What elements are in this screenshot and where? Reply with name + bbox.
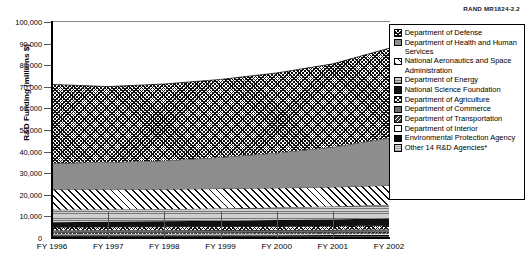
legend-item[interactable]: Department of Agriculture	[394, 95, 521, 104]
y-axis-tick-label: 30,000	[19, 169, 42, 178]
x-axis-tick	[333, 212, 334, 238]
y-axis-tick-label: 60,000	[19, 104, 42, 113]
legend-item-label: Department of Health and Human Services	[405, 38, 521, 56]
legend-swatch-icon	[394, 58, 402, 66]
legend-item-label: National Science Foundation	[405, 85, 501, 94]
x-axis-tick-label: FY 2001	[318, 242, 348, 251]
plot-top-rule	[51, 21, 390, 22]
legend-item[interactable]: Department of Transportation	[394, 114, 521, 123]
legend-item-label: Other 14 R&D Agencies*	[405, 143, 488, 152]
legend-item[interactable]: Department of Energy	[394, 75, 521, 84]
x-axis-tick-label: FY 1997	[93, 242, 123, 251]
x-axis-tick-label: FY 1998	[149, 242, 179, 251]
x-axis-tick-label: FY 2002	[374, 242, 404, 251]
legend-item-label: Department of Transportation	[405, 114, 503, 123]
x-axis-tick	[164, 212, 165, 238]
legend-item[interactable]: Department of Health and Human Services	[394, 38, 521, 56]
y-axis-tick-label: 70,000	[19, 82, 42, 91]
x-axis-tick	[108, 212, 109, 238]
y-axis-tick-label: 10,000	[19, 212, 42, 221]
legend-item-label: Environmental Protection Agency	[405, 133, 515, 142]
y-axis-tick-label: 80,000	[19, 61, 42, 70]
legend-item-label: Department of Interior	[405, 124, 478, 133]
legend-swatch-icon	[394, 86, 402, 94]
legend-swatch-icon	[394, 39, 402, 47]
legend-item-label: Department of Energy	[405, 75, 478, 84]
y-axis-tick-label: 40,000	[19, 147, 42, 156]
legend-item[interactable]: Other 14 R&D Agencies*	[394, 143, 521, 152]
x-axis-tick	[221, 212, 222, 238]
legend-swatch-icon	[394, 144, 402, 152]
x-axis-tick	[277, 212, 278, 238]
x-axis-tick-label: FY 2000	[261, 242, 291, 251]
y-axis-tick-label: 100,000	[15, 18, 42, 27]
legend-swatch-icon	[394, 135, 402, 143]
y-axis-tick-label: 20,000	[19, 190, 42, 199]
legend-swatch-icon	[394, 77, 402, 85]
legend-item-label: Department of Defense	[405, 28, 483, 37]
legend-swatch-icon	[394, 96, 402, 104]
legend-item-label: National Aeronautics and Space Administr…	[405, 56, 521, 74]
x-axis-tick-label: FY 1999	[205, 242, 235, 251]
legend-swatch-icon	[394, 106, 402, 114]
legend-item[interactable]: Environmental Protection Agency	[394, 133, 521, 142]
figure-source-id: RAND MR1824-2.2	[463, 5, 520, 12]
legend-swatch-icon	[394, 29, 402, 37]
legend-item-label: Department of Agriculture	[405, 95, 490, 104]
legend: Department of DefenseDepartment of Healt…	[389, 24, 525, 200]
legend-item-label: Department of Commerce	[405, 104, 491, 113]
legend-item[interactable]: Department of Interior	[394, 124, 521, 133]
legend-swatch-icon	[394, 125, 402, 133]
y-axis-line	[51, 21, 53, 239]
y-axis-tick-label: 50,000	[19, 126, 42, 135]
area-band-outline	[52, 22, 389, 238]
plot-area	[52, 22, 389, 238]
legend-item[interactable]: Department of Commerce	[394, 104, 521, 113]
legend-item[interactable]: National Science Foundation	[394, 85, 521, 94]
figure-container: RAND MR1824-2.2 R&D Funding (millions $)…	[0, 0, 528, 262]
legend-swatch-icon	[394, 115, 402, 123]
x-axis-tick-label: FY 1996	[37, 242, 67, 251]
legend-item[interactable]: Department of Defense	[394, 28, 521, 37]
y-axis-tick-label: 90,000	[19, 39, 42, 48]
legend-item[interactable]: National Aeronautics and Space Administr…	[394, 56, 521, 74]
y-axis-tick-labels: 010,00020,00030,00040,00050,00060,00070,…	[0, 0, 42, 262]
